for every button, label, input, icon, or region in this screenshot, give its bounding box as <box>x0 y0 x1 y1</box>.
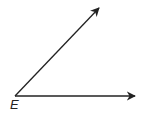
angle-diagram: E <box>0 0 165 122</box>
angle-figure: E <box>0 0 165 122</box>
upper-ray <box>15 8 99 96</box>
vertex-label: E <box>10 97 19 112</box>
